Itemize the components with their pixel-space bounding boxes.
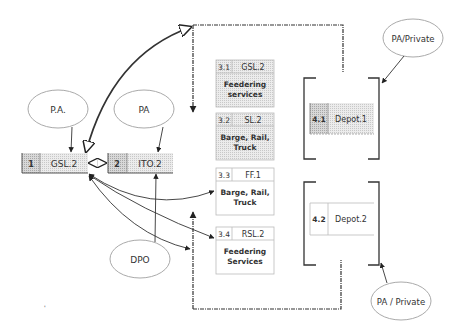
node-4-2: 4.2 Depot.2 xyxy=(310,203,374,235)
node-4-2-label: Depot.2 xyxy=(335,215,367,224)
arrow-pa-dot-to-node-1 xyxy=(71,127,72,152)
ellipse-dpo-label: DPO xyxy=(130,255,149,265)
node-3-3-label: FF.1 xyxy=(245,171,261,180)
ellipse-pa: PA xyxy=(114,90,174,128)
node-3-2-desc-line2: Truck xyxy=(234,143,258,152)
ellipse-pa-dot-label: P.A. xyxy=(50,105,66,115)
node-1: 1 GSL.2 xyxy=(22,153,88,173)
ellipse-pa-private-bottom-label: PA / Private xyxy=(377,297,425,307)
node-3-4: 3.4 RSL.2 Feedering Services xyxy=(216,227,274,274)
ellipse-pa-label: PA xyxy=(138,105,150,115)
ellipse-dpo: DPO xyxy=(110,240,170,278)
node-3-1-desc-line1: Feedering xyxy=(224,80,266,89)
arrow-dpo-to-node-2 xyxy=(155,174,156,242)
arrow-node-1-to-node-3-4 xyxy=(89,175,214,238)
node-3-4-desc-line2: Services xyxy=(227,257,263,266)
node-3-1-label: GSL.2 xyxy=(241,63,264,72)
ellipse-pa-private-top: PA/Private xyxy=(383,19,443,57)
arrow-node-1-to-frame-bottom xyxy=(89,176,190,249)
ellipse-pa-private-bottom: PA / Private xyxy=(371,282,431,320)
node-2: 2 ITO.2 xyxy=(108,153,173,173)
node-3-1-desc-line2: services xyxy=(228,90,263,99)
node-3-4-id: 3.4 xyxy=(218,230,230,239)
arrow-pa-private-top-to-depot-1 xyxy=(382,56,404,83)
node-3-2-desc-line1: Barge, Rail, xyxy=(220,133,269,142)
node-3-2: 3.2 SL.2 Barge, Rail, Truck xyxy=(216,113,274,160)
node-3-1-id: 3.1 xyxy=(218,63,230,72)
node-2-label: ITO.2 xyxy=(138,159,161,169)
stray-mark: ' xyxy=(44,304,46,311)
node-3-4-label: RSL.2 xyxy=(242,230,265,239)
node-3-4-desc-line1: Feedering xyxy=(224,247,266,256)
arrow-pa-private-bottom-to-depot-2 xyxy=(381,263,387,283)
ellipse-pa-dot: P.A. xyxy=(28,90,88,128)
diagram-canvas: P.A. PA PA/Private DPO PA / Private 1 GS… xyxy=(0,0,453,334)
arrow-pa-to-node-2 xyxy=(158,127,163,152)
node-1-id: 1 xyxy=(28,160,34,169)
ellipse-pa-private-top-label: PA/Private xyxy=(392,34,435,44)
node-4-2-id: 4.2 xyxy=(312,215,325,224)
node-3-3-desc-line1: Barge, Rail, xyxy=(220,188,269,197)
node-1-label: GSL.2 xyxy=(51,159,77,169)
node-3-2-label: SL.2 xyxy=(244,116,261,125)
node-4-1-label: Depot.1 xyxy=(335,115,367,124)
node-4-1-id: 4.1 xyxy=(312,115,325,124)
arrow-node-1-to-frame-top xyxy=(86,27,191,152)
node-3-3: 3.3 FF.1 Barge, Rail, Truck xyxy=(216,168,274,215)
node-3-3-id: 3.3 xyxy=(218,171,230,180)
node-3-3-desc-line2: Truck xyxy=(234,198,258,207)
node-3-1: 3.1 GSL.2 Feedering services xyxy=(216,60,274,107)
node-2-id: 2 xyxy=(114,160,120,169)
node-4-1: 4.1 Depot.1 xyxy=(310,103,374,134)
node-3-2-id: 3.2 xyxy=(218,116,230,125)
